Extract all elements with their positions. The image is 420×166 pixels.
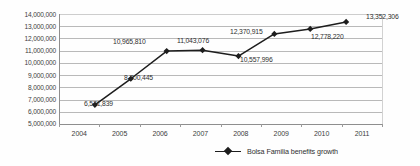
data-point-label: 11,043,076	[177, 37, 209, 45]
data-point-label: 10,557,996	[240, 56, 273, 64]
legend-entry-label: Bolsa Familia benefits growth	[247, 147, 338, 156]
data-point-marker	[307, 26, 313, 32]
data-point-label: 8,700,445	[124, 74, 153, 82]
legend-diamond-marker-icon	[215, 147, 241, 156]
data-point-label: 12,778,220	[311, 33, 344, 41]
data-point-label: 10,965,810	[113, 38, 146, 46]
data-point-label: 13,352,306	[366, 13, 399, 21]
chart-legend: Bolsa Familia benefits growth	[215, 144, 338, 158]
data-point-marker	[199, 47, 205, 53]
series-line-bolsa-familia-benefits-growth	[0, 0, 420, 166]
chart-figure: 14,000,000 13,000,000 12,000,000 11,000,…	[0, 0, 420, 166]
data-point-label: 12,370,915	[230, 28, 263, 36]
data-point-label: 6,571,839	[84, 100, 113, 108]
data-point-marker	[343, 19, 349, 25]
